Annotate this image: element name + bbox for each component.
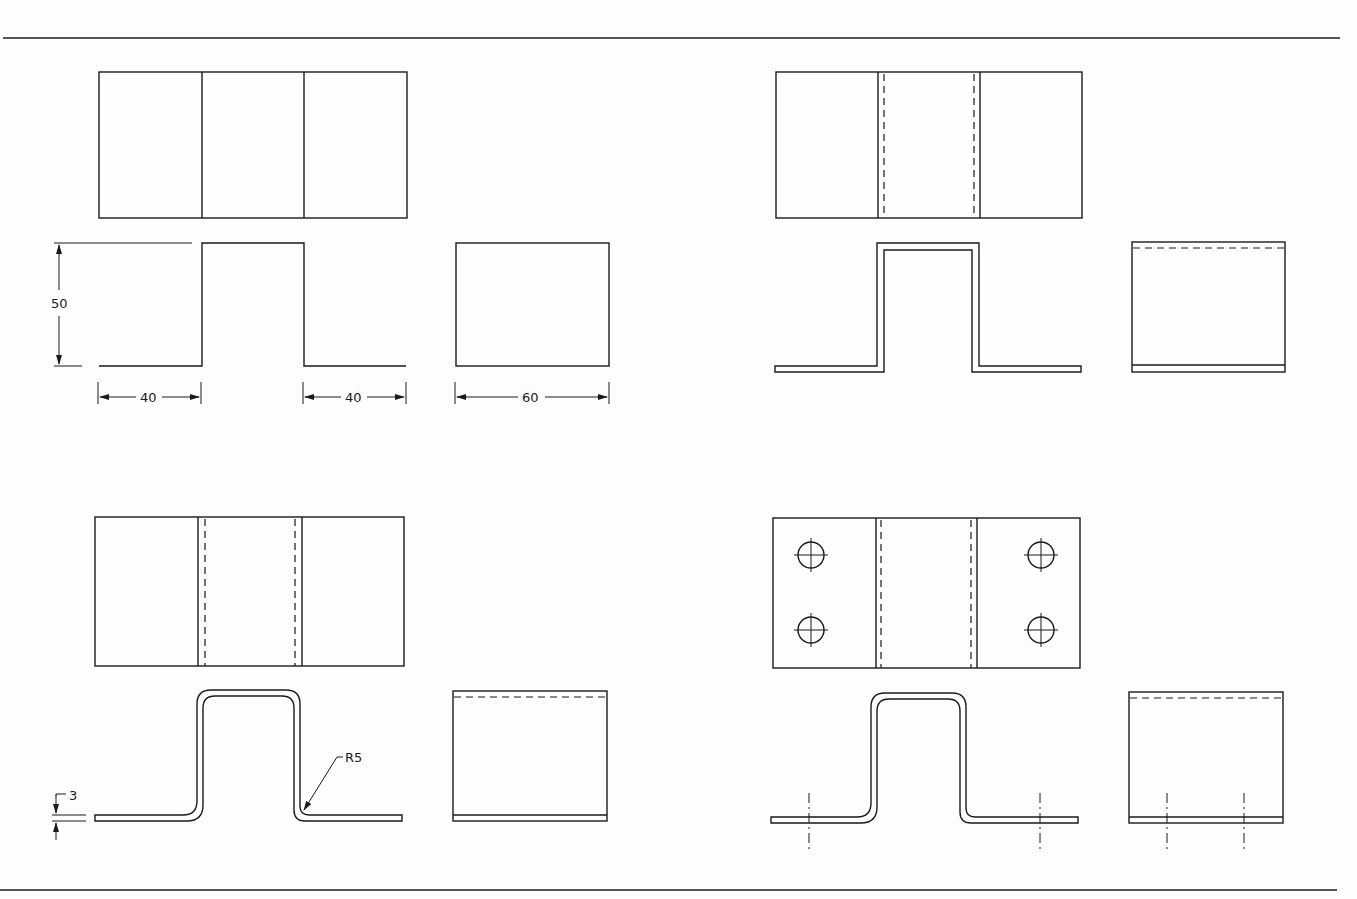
dimension-radius: R5 <box>304 750 362 810</box>
hole-top-right <box>1024 538 1058 572</box>
side-view <box>1132 242 1285 372</box>
panel-thickness <box>775 72 1285 372</box>
dimension-left-flange: 40 <box>98 382 201 405</box>
dimension-right-flange: 40 <box>303 382 406 405</box>
top-view <box>95 517 404 666</box>
svg-text:60: 60 <box>522 390 539 405</box>
hole-bottom-right <box>1024 613 1058 647</box>
dimension-depth: 60 <box>455 382 609 405</box>
top-view <box>776 72 1082 218</box>
svg-text:R5: R5 <box>345 750 362 765</box>
top-view <box>773 518 1080 668</box>
svg-text:3: 3 <box>69 788 77 803</box>
front-view <box>771 693 1078 850</box>
svg-text:40: 40 <box>345 390 362 405</box>
panel-basic-shape: 50 40 40 60 <box>51 72 609 405</box>
side-view <box>456 243 609 366</box>
side-view <box>1129 692 1283 850</box>
front-view <box>99 243 406 366</box>
hole-bottom-left <box>794 613 828 647</box>
side-view <box>453 691 607 821</box>
top-view <box>99 72 407 218</box>
technical-drawing: 50 40 40 60 <box>0 0 1357 899</box>
front-view <box>775 243 1081 372</box>
svg-text:50: 50 <box>51 296 68 311</box>
hole-top-left <box>794 538 828 572</box>
dimension-height: 50 <box>51 243 192 366</box>
svg-text:40: 40 <box>140 390 157 405</box>
panel-bend-radius: 3 R5 <box>52 517 607 840</box>
panel-holes <box>771 518 1283 850</box>
dimension-thickness: 3 <box>52 788 86 840</box>
